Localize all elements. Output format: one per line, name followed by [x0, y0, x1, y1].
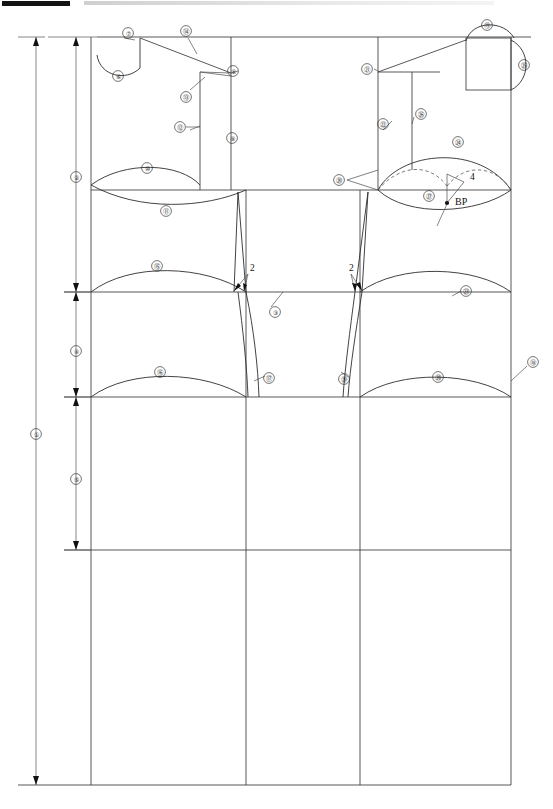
callout-7: ⑦: [123, 28, 134, 39]
callout-label: ⑯: [157, 369, 164, 376]
callout-18: ⑱: [528, 357, 539, 368]
callout-label: ⑤: [74, 476, 79, 483]
callout-22: ㉒: [378, 119, 389, 130]
callout-9: ⑨: [227, 133, 238, 144]
plain-label-layer: 224BP: [250, 172, 475, 273]
callout-label: ⑫: [177, 124, 184, 131]
callout-label: ㉘: [435, 374, 442, 381]
callout-label: ⑪: [163, 208, 170, 215]
callout-5: ⑤: [71, 474, 82, 485]
callout-label: ③: [273, 309, 278, 316]
callout-label: ㉑: [364, 66, 371, 73]
callout-25: ㉕: [519, 60, 530, 71]
callout-label: ㉖: [418, 111, 425, 118]
pattern-drafting-sheet: ①②③④⑤⑥⑦⑧⑨⑩⑪⑫⑬⑭⑮⑯⑰⑱⑲⑳㉑㉒㉓㉔㉕㉖㉗㉘㉙ 224BP: [0, 0, 553, 809]
callout-27: ㉗: [424, 191, 435, 202]
callout-number-layer: ①②③④⑤⑥⑦⑧⑨⑩⑪⑫⑬⑭⑮⑯⑰⑱⑲⑳㉑㉒㉓㉔㉕㉖㉗㉘㉙: [31, 20, 539, 485]
callout-2: ②: [71, 172, 82, 183]
callout-label: ㉙: [341, 376, 348, 383]
callout-15: ⑮: [152, 261, 163, 272]
callout-26: ㉖: [416, 109, 427, 120]
back-bodice-lower: [343, 192, 527, 397]
pattern-draft-drawing: ①②③④⑤⑥⑦⑧⑨⑩⑪⑫⑬⑭⑮⑯⑰⑱⑲⑳㉑㉒㉓㉔㉕㉖㉗㉘㉙ 224BP: [0, 0, 553, 809]
front-bodice-lower: [91, 192, 259, 397]
callout-label: ㉔: [455, 139, 462, 146]
callout-8: ⑧: [228, 66, 239, 77]
callout-label: ⑳: [336, 177, 343, 184]
callout-10: ⑩: [142, 163, 153, 174]
callout-11: ⑪: [161, 206, 172, 217]
back-sleevecap-and-bust-dart: [347, 158, 511, 226]
callout-17: ⑰: [264, 373, 275, 384]
callout-label: ⑧: [231, 68, 236, 75]
callout-label: ⑥: [116, 73, 121, 80]
callout-29: ㉙: [339, 374, 350, 385]
callout-12: ⑫: [175, 122, 186, 133]
callout-1: ①: [31, 429, 42, 440]
frame-lines: [18, 37, 511, 785]
dart-right-amount: 2: [349, 263, 354, 273]
callout-21: ㉑: [362, 64, 373, 75]
callout-24: ㉔: [453, 137, 464, 148]
dimension-chain-inner: [48, 37, 97, 550]
callout-3: ③: [270, 307, 281, 318]
bust-dart-amount: 4: [470, 172, 475, 182]
back-bodice-upper: [374, 25, 531, 124]
callout-label: ①: [34, 431, 39, 438]
callout-4: ④: [71, 346, 82, 357]
callout-label: ⑩: [145, 165, 150, 172]
callout-label: ㉗: [426, 193, 433, 200]
callout-label: ⑨: [230, 135, 235, 142]
front-bodice-upper: [91, 38, 246, 204]
callout-label: ④: [74, 348, 79, 355]
callout-label: ⑬: [183, 94, 190, 101]
callout-label: ⑱: [530, 359, 537, 366]
callout-label: ㉕: [521, 62, 528, 69]
callout-20: ⑳: [334, 175, 345, 186]
callout-label: ⑭: [183, 28, 190, 35]
callout-label: ㉓: [463, 288, 470, 295]
callout-label: ⑰: [266, 375, 273, 382]
dimension-chain-outer: [18, 37, 45, 785]
callout-14: ⑭: [181, 26, 192, 37]
callout-label: ㉒: [380, 121, 387, 128]
callout-label: ⑦: [126, 30, 131, 37]
callout-16: ⑯: [155, 367, 166, 378]
callout-label: ⑲: [484, 22, 491, 29]
callout-label: ②: [74, 174, 79, 181]
dart-left-amount: 2: [250, 263, 255, 273]
callout-23: ㉓: [461, 286, 472, 297]
callout-13: ⑬: [181, 92, 192, 103]
callout-label: ⑮: [154, 263, 161, 270]
bust-point: BP: [455, 196, 468, 207]
